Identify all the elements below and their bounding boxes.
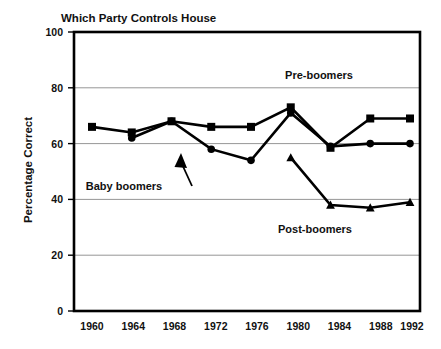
y-tick-label-60: 60 <box>51 138 63 150</box>
x-tick-label-1992: 1992 <box>400 320 424 332</box>
series-baby-boomers-point-1976 <box>247 157 255 165</box>
series-baby-boomers-point-1972 <box>207 145 215 153</box>
x-tick-label-1976: 1976 <box>245 320 269 332</box>
y-axis-tick-labels: 0 20 40 60 80 100 <box>45 26 63 317</box>
x-axis-tick-labels: 1960 1964 1968 1972 1976 1980 1984 1988 … <box>80 320 424 332</box>
series-post-boomers-line <box>291 158 410 208</box>
chart-title: Which Party Controls House <box>61 12 216 24</box>
annotation-post-boomers: Post-boomers <box>278 223 352 235</box>
y-tick-label-100: 100 <box>45 26 63 38</box>
plot-frame <box>74 32 420 311</box>
y-tick-label-80: 80 <box>51 82 63 94</box>
x-tick-label-1972: 1972 <box>204 320 228 332</box>
series-pre-boomers-point-1964 <box>128 128 136 136</box>
series-post-boomers <box>286 153 414 211</box>
annotation-baby-boomers: Baby boomers <box>86 180 162 192</box>
x-tick-label-1980: 1980 <box>287 320 311 332</box>
series-pre-boomers-point-1976 <box>247 123 255 131</box>
x-tick-label-1960: 1960 <box>80 320 104 332</box>
y-tick-label-40: 40 <box>51 193 63 205</box>
x-tick-label-1984: 1984 <box>328 320 352 332</box>
series-pre-boomers-point-1984 <box>327 144 335 152</box>
x-tick-label-1968: 1968 <box>163 320 187 332</box>
series-pre-boomers-point-1960 <box>88 123 96 131</box>
series-post-boomers-point-1980 <box>286 153 295 161</box>
baby-boomers-arrow-icon <box>175 153 193 186</box>
series-baby-boomers-point-1988 <box>366 140 374 148</box>
line-chart: Which Party Controls House Percentage Co… <box>0 0 441 349</box>
series-pre-boomers-point-1972 <box>207 123 215 131</box>
y-tick-label-0: 0 <box>57 305 63 317</box>
x-tick-label-1964: 1964 <box>122 320 146 332</box>
series-pre-boomers-point-1988 <box>366 114 374 122</box>
chart-container: Which Party Controls House Percentage Co… <box>0 0 441 349</box>
x-tick-label-1988: 1988 <box>369 320 393 332</box>
annotation-pre-boomers: Pre-boomers <box>285 69 353 81</box>
y-axis-label: Percentage Correct <box>22 117 34 223</box>
series-pre-boomers-point-1968 <box>168 117 176 125</box>
series-pre-boomers-point-1980 <box>287 103 295 111</box>
series-baby-boomers-point-1992 <box>406 140 414 148</box>
y-tick-label-20: 20 <box>51 249 63 261</box>
series-pre-boomers-point-1992 <box>406 114 414 122</box>
